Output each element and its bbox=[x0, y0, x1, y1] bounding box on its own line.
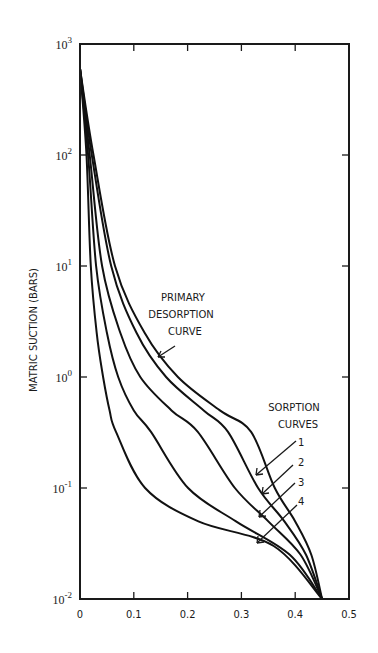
suction-chart: 00.10.20.30.40.5 10310210110010-110-2 MA… bbox=[0, 0, 378, 653]
sorption-number-2: 2 bbox=[298, 457, 304, 468]
sorption-number-4: 4 bbox=[298, 496, 304, 507]
sorption-label-line2: CURVES bbox=[278, 419, 318, 430]
x-tick-label: 0.5 bbox=[341, 608, 357, 621]
x-tick-label: 0.1 bbox=[126, 608, 142, 621]
primary-label-line1: PRIMARY bbox=[161, 292, 206, 303]
x-tick-label: 0.3 bbox=[234, 608, 250, 621]
y-axis-label: MATRIC SUCTION (BARS) bbox=[28, 268, 39, 392]
sorption-label-line1: SORPTION bbox=[268, 402, 320, 413]
primary-label-line3: CURVE bbox=[168, 326, 202, 337]
sorption-number-3: 3 bbox=[298, 477, 304, 488]
x-tick-label: 0.2 bbox=[180, 608, 196, 621]
sorption-number-1: 1 bbox=[298, 437, 304, 448]
x-tick-label: 0.4 bbox=[287, 608, 303, 621]
primary-label-line2: DESORPTION bbox=[148, 309, 214, 320]
x-tick-label: 0 bbox=[77, 608, 83, 621]
